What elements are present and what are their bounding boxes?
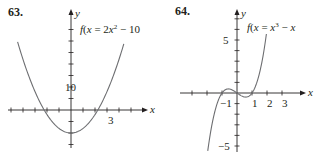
y-axis-label: y <box>240 7 246 19</box>
x-tick-label: 3 <box>282 97 288 109</box>
x-axis-arrow-icon <box>300 91 306 96</box>
x-axis-label: x <box>307 86 313 98</box>
y-tick-label: 10 <box>65 81 77 93</box>
x-tick-label: −1 <box>220 97 232 109</box>
y-axis-arrow-icon <box>69 9 74 15</box>
problem-number: 63. <box>8 5 23 19</box>
chart-panel-63: 310xy63.f(x = 2x2 − 10 <box>0 0 158 159</box>
graph-64: −11235−5xy64.f(x = x3 − x <box>158 0 316 159</box>
chart-panel-64: −11235−5xy64.f(x = x3 − x <box>158 0 316 159</box>
function-label: f(x = 2x2 − 10 <box>80 23 140 36</box>
function-label: f(x = x3 − x <box>247 21 295 34</box>
problem-number: 64. <box>175 4 190 18</box>
y-axis-arrow-icon <box>235 9 240 15</box>
x-tick-label: 2 <box>267 97 273 109</box>
y-tick-label: 5 <box>223 34 229 46</box>
graph-63: 310xy63.f(x = 2x2 − 10 <box>0 0 158 159</box>
y-axis-label: y <box>74 7 80 19</box>
x-tick-label: 3 <box>108 114 114 126</box>
x-tick-label: 1 <box>252 97 258 109</box>
y-tick-label: −5 <box>218 140 230 152</box>
x-axis-label: x <box>149 103 155 115</box>
x-axis-arrow-icon <box>142 108 148 113</box>
